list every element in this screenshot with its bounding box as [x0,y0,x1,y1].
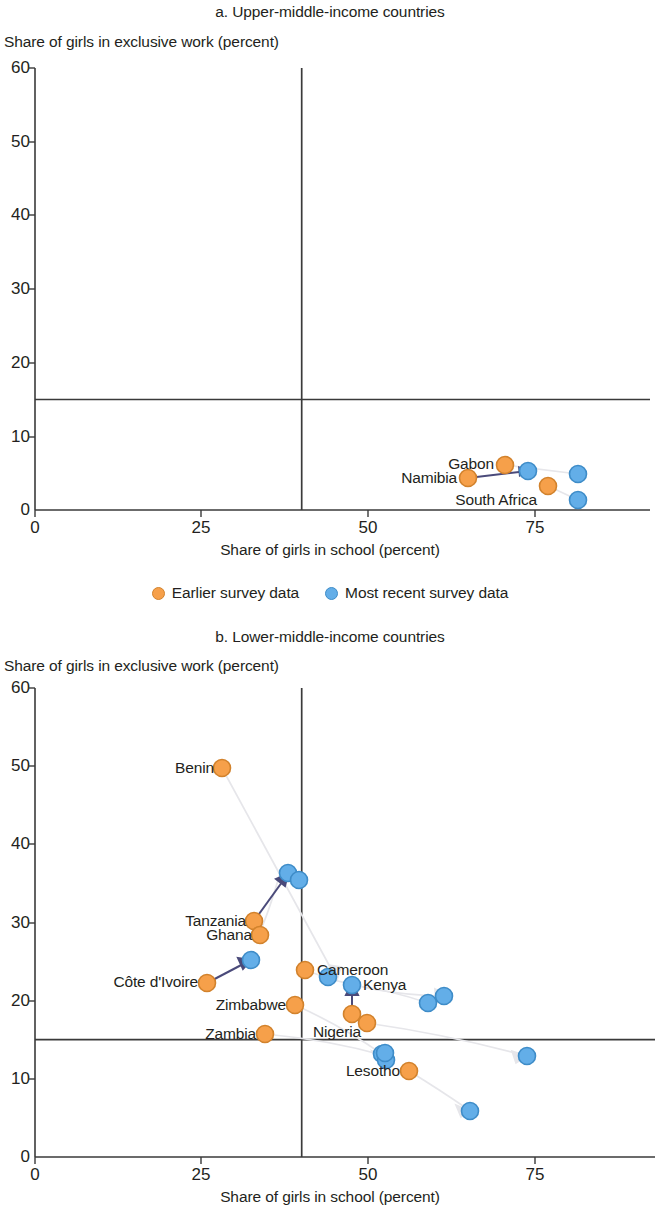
marker-earlier-cote-divoire [199,975,216,992]
panel-a-axes [28,68,650,517]
marker-recent-ghana [291,872,308,889]
marker-recent-gabon [570,466,587,483]
marker-earlier-south-africa [540,478,557,495]
panel-b-x-axis-title: Share of girls in school (percent) [0,1188,660,1206]
marker-earlier-kenya [344,1006,361,1023]
figure-page: a. Upper-middle-income countries Share o… [0,0,660,1219]
marker-recent-nigeria [519,1048,536,1065]
panel-b-label-cote-divoire: Côte d'Ivoire [20,973,198,991]
panel-b-label-ghana: Ghana [110,926,252,944]
panel-a-label-namibia: Namibia [320,469,457,487]
panel-b-label-zimbabwe: Zimbabwe [140,996,286,1014]
legend-item-recent: Most recent survey data [325,584,508,602]
marker-recent-lesotho [462,1103,479,1120]
panel-b-label-benin: Benin [78,759,214,777]
marker-recent-extra-1 [420,995,437,1012]
panel-lower-middle-income: b. Lower-middle-income countries Share o… [0,625,660,1219]
marker-earlier-gabon [497,457,514,474]
legend-dot-recent-icon [325,587,338,600]
marker-recent-extra-2 [377,1045,394,1062]
marker-earlier-cameroon [297,962,314,979]
panel-a-label-south-africa: South Africa [390,491,537,509]
panel-a-x-axis-title: Share of girls in school (percent) [0,541,660,559]
panel-b-label-nigeria: Nigeria [313,1023,433,1041]
marker-earlier-lesotho [401,1063,418,1080]
marker-earlier-zambia [257,1026,274,1043]
panel-b-plot-area [0,625,660,1185]
marker-recent-kenya [344,977,361,994]
marker-earlier-ghana [252,927,269,944]
legend-label-recent: Most recent survey data [345,584,508,602]
panel-b-label-lesotho: Lesotho [270,1062,400,1080]
marker-recent-cote-divoire [243,952,260,969]
marker-recent-namibia [520,463,537,480]
panel-b-label-zambia: Zambia [140,1025,256,1043]
legend-item-earlier: Earlier survey data [152,584,299,602]
figure-legend: Earlier survey data Most recent survey d… [0,584,660,602]
marker-earlier-zimbabwe [287,997,304,1014]
marker-recent-south-africa [570,492,587,509]
panel-b-label-kenya: Kenya [363,976,483,994]
panel-upper-middle-income: a. Upper-middle-income countries Share o… [0,0,660,620]
panel-a-reference-lines [35,68,650,510]
legend-dot-earlier-icon [152,587,165,600]
marker-earlier-benin [214,760,231,777]
legend-label-earlier: Earlier survey data [172,584,299,602]
